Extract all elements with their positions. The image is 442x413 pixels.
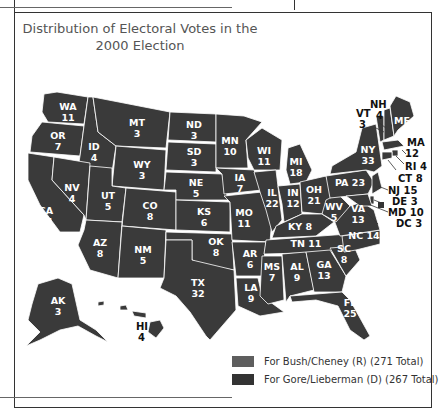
- label-WI: WI11: [257, 145, 271, 167]
- label-FL: FL25: [343, 297, 356, 319]
- label-PA: PA 23: [335, 177, 365, 188]
- label-CT: CT 8: [398, 173, 423, 184]
- state-AK: [26, 278, 108, 346]
- label-IN: IN12: [286, 187, 299, 209]
- label-KY: KY 8: [288, 221, 313, 232]
- state-RI: [392, 150, 398, 156]
- label-TX: TX32: [191, 277, 205, 299]
- label-MD: MD 10: [388, 207, 424, 218]
- label-HI: HI4: [136, 321, 148, 343]
- label-DE: DE 3: [392, 196, 418, 207]
- label-VA: VA13: [351, 203, 366, 225]
- label-NJ: NJ 15: [388, 185, 418, 196]
- legend-item-bush: For Bush/Cheney (R) (271 Total): [232, 352, 439, 370]
- label-MI: MI18: [289, 156, 303, 178]
- label-MA: MA12: [405, 137, 425, 159]
- state-HI: [148, 320, 164, 338]
- state-MA: [382, 140, 404, 150]
- label-RI: RI 4: [405, 161, 427, 172]
- legend-swatch-bush: [232, 356, 254, 367]
- legend-label-bush: For Bush/Cheney (R) (271 Total): [264, 356, 423, 367]
- state-HI-2: [120, 305, 128, 310]
- state-HI-3: [132, 311, 146, 318]
- label-NC: NC 14: [348, 230, 380, 241]
- legend-item-gore: For Gore/Lieberman (D) (267 Total): [232, 370, 439, 388]
- state-NJ: [372, 172, 382, 194]
- label-TN: TN 11: [291, 238, 322, 249]
- state-HI-1: [98, 301, 104, 306]
- label-DC: DC 3: [396, 218, 422, 229]
- legend-swatch-gore: [232, 374, 254, 385]
- label-OH: OH21: [306, 184, 322, 206]
- label-MN: MN10: [221, 135, 238, 157]
- label-CA: CA54: [39, 205, 54, 227]
- legend-label-gore: For Gore/Lieberman (D) (267 Total): [264, 374, 439, 385]
- label-NY: NY33: [361, 144, 376, 166]
- label-GA: GA13: [316, 259, 332, 281]
- state-FL: [290, 292, 370, 340]
- label-IL: IL22: [265, 187, 278, 209]
- label-MO: MO11: [235, 207, 253, 229]
- state-CT: [382, 152, 392, 160]
- legend: For Bush/Cheney (R) (271 Total) For Gore…: [232, 352, 439, 388]
